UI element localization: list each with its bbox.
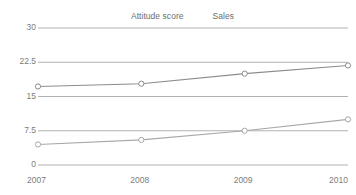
x-tick-2007: 2007 (27, 176, 46, 185)
x-tick-2010: 2010 (329, 176, 348, 185)
data-point-sales-2010[interactable] (345, 117, 350, 122)
line-chart: Attitude score Sales 07.51522.530 200720… (0, 0, 356, 195)
series-line-attitude-score (38, 65, 348, 86)
data-point-attitude-score-2007[interactable] (35, 84, 40, 89)
y-tick-7.5: 7.5 (24, 126, 36, 135)
data-point-attitude-score-2008[interactable] (139, 81, 144, 86)
x-tick-2009: 2009 (234, 176, 253, 185)
data-point-sales-2009[interactable] (242, 128, 247, 133)
data-point-attitude-score-2010[interactable] (345, 63, 350, 68)
y-tick-22.5: 22.5 (19, 57, 36, 66)
series-markers (35, 63, 350, 147)
series-line-sales (38, 119, 348, 144)
data-point-sales-2008[interactable] (139, 137, 144, 142)
x-tick-2008: 2008 (130, 176, 149, 185)
data-point-attitude-score-2009[interactable] (242, 71, 247, 76)
y-tick-30: 30 (27, 23, 36, 32)
gridlines (38, 28, 348, 165)
y-tick-0: 0 (31, 160, 36, 169)
series-lines (38, 65, 348, 144)
plot-area (0, 0, 356, 195)
data-point-sales-2007[interactable] (35, 142, 40, 147)
y-tick-15: 15 (27, 92, 36, 101)
